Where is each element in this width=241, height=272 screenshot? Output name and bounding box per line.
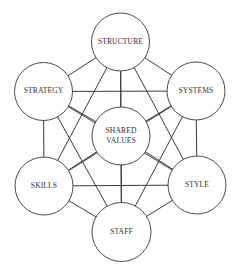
node-systems: SYSTEMS [167,62,225,120]
node-staff: STAFF [92,203,151,262]
node-label-strategy: STRATEGY [24,86,64,95]
node-strategy: STRATEGY [15,63,73,121]
node-label-style: STYLE [185,180,209,189]
node-label-staff: STAFF [110,227,133,236]
node-label-shared-values: VALUES [106,136,136,145]
seven-s-diagram: STRUCTURESTRATEGYSYSTEMSSHAREDVALUESSKIL… [0,0,241,272]
node-label-structure: STRUCTURE [98,37,143,46]
nodes-layer: STRUCTURESTRATEGYSYSTEMSSHAREDVALUESSKIL… [15,13,227,262]
node-style: STYLE [168,156,226,214]
node-structure: STRUCTURE [92,13,150,71]
node-skills: SKILLS [15,157,73,215]
node-label-systems: SYSTEMS [179,86,214,95]
node-shared-values: SHAREDVALUES [92,107,150,165]
node-label-skills: SKILLS [31,181,57,190]
node-label-shared-values: SHARED [106,126,137,135]
